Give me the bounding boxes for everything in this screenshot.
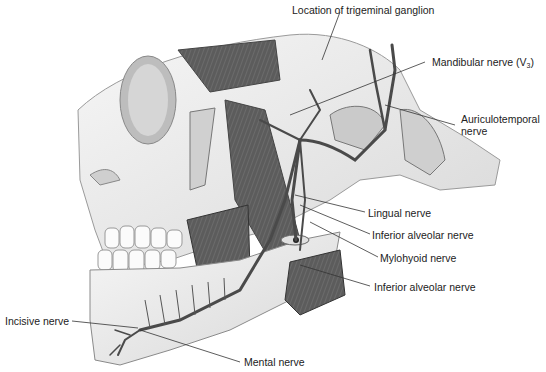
label-mental-nerve: Mental nerve: [244, 356, 305, 368]
label-mandibular-nerve: Mandibular nerve (V3): [432, 56, 534, 72]
label-trigeminal-ganglion: Location of trigeminal ganglion: [292, 4, 434, 16]
label-auriculotemporal-line1: Auriculotemporal: [461, 113, 540, 125]
label-inferior-alveolar-nerve-2: Inferior alveolar nerve: [374, 281, 476, 293]
anatomy-illustration: Location of trigeminal ganglion Mandibul…: [0, 0, 546, 372]
label-mylohyoid-nerve: Mylohyoid nerve: [380, 252, 456, 264]
label-incisive-nerve: Incisive nerve: [5, 315, 69, 327]
label-auriculotemporal: Auriculotemporal nerve: [461, 113, 540, 137]
label-mandibular-nerve-close: ): [530, 56, 534, 68]
label-mandibular-nerve-text: Mandibular nerve (V: [432, 56, 527, 68]
label-auriculotemporal-line2: nerve: [461, 125, 540, 137]
label-lingual-nerve: Lingual nerve: [368, 207, 431, 219]
label-inferior-alveolar-nerve-1: Inferior alveolar nerve: [372, 229, 474, 241]
